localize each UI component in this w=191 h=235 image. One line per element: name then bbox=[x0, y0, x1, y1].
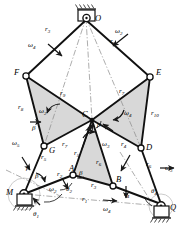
omega-label-3-right: ω3 bbox=[165, 165, 172, 172]
omega-label-4-right: ω4 bbox=[124, 110, 131, 117]
link-label-r9: r9 bbox=[60, 90, 65, 97]
omega-label-2-top: ω2 bbox=[115, 28, 122, 35]
joint-label-O: O bbox=[95, 14, 101, 23]
omega-label-4-bottom: ω4 bbox=[103, 206, 110, 213]
joint-label-C: C bbox=[82, 110, 88, 119]
theta1-arc bbox=[44, 194, 62, 202]
joint-D-pin bbox=[138, 145, 144, 151]
omega-label-2-bottom: ω2 bbox=[49, 186, 56, 193]
joint-E-pin bbox=[147, 74, 153, 80]
omega-label-4-top: ω4 bbox=[28, 42, 35, 49]
omega-label-3-center: ω3 bbox=[102, 141, 109, 148]
joint-label-B: B bbox=[116, 175, 121, 184]
link-label-r8: r8 bbox=[18, 104, 23, 111]
link-label-r6: r6 bbox=[96, 159, 101, 166]
angle-label-beta-M: β bbox=[35, 173, 39, 180]
joint-label-F: F bbox=[14, 68, 19, 77]
arrow-r6-right bbox=[121, 155, 130, 171]
link-D-Q bbox=[141, 148, 161, 204]
link-label-r5: r5 bbox=[74, 150, 79, 157]
angle-label-beta-G: β bbox=[26, 165, 30, 172]
joint-label-E: E bbox=[156, 68, 161, 77]
angle-label-beta-A: β bbox=[79, 170, 83, 177]
link-label-r4: r4 bbox=[121, 141, 126, 148]
joint-label-D: D bbox=[146, 143, 152, 152]
omega-label-2-left: ω2 bbox=[39, 108, 46, 115]
link-label-r9-top: r9 bbox=[110, 38, 115, 45]
link-label-r10: r10 bbox=[151, 110, 159, 117]
angle-label-beta-C: β bbox=[97, 122, 101, 129]
ground-support-O bbox=[76, 5, 97, 22]
joint-C-pin bbox=[90, 118, 94, 122]
ground-support-Q bbox=[151, 202, 172, 223]
joint-F-pin bbox=[23, 73, 29, 79]
angle-label-beta-F: β bbox=[32, 125, 36, 132]
joint-label-G: G bbox=[49, 146, 55, 155]
joint-label-M: M bbox=[6, 188, 13, 197]
link-label-r3-lower: r3 bbox=[91, 182, 96, 189]
link-label-r7-lower: r7 bbox=[62, 141, 67, 148]
angle-label-theta2: θ2 bbox=[66, 186, 72, 193]
linkage-diagram: O F E C G D A B M Q r3 r9 r8 r9 r7 r10 r… bbox=[0, 0, 191, 235]
link-label-r1: r1 bbox=[82, 196, 87, 203]
joint-label-A: A bbox=[69, 164, 74, 173]
link-label-r4-lower: r4 bbox=[124, 191, 129, 198]
joint-label-Q: Q bbox=[170, 203, 176, 212]
angle-label-theta1: θ1 bbox=[33, 211, 39, 218]
diagram-canvas bbox=[0, 0, 191, 235]
link-label-r3: r3 bbox=[45, 26, 50, 33]
link-label-r5-left: r5 bbox=[41, 154, 46, 161]
joint-G-pin bbox=[41, 143, 47, 149]
omega-label-5-left: ω5 bbox=[12, 140, 19, 147]
ground-support-M bbox=[14, 190, 35, 211]
link-label-r2: r2 bbox=[57, 171, 62, 178]
angle-label-theta4: θ4 bbox=[151, 188, 157, 195]
link-label-r7: r7 bbox=[119, 88, 124, 95]
link-label-r6-right: r6 bbox=[146, 161, 151, 168]
